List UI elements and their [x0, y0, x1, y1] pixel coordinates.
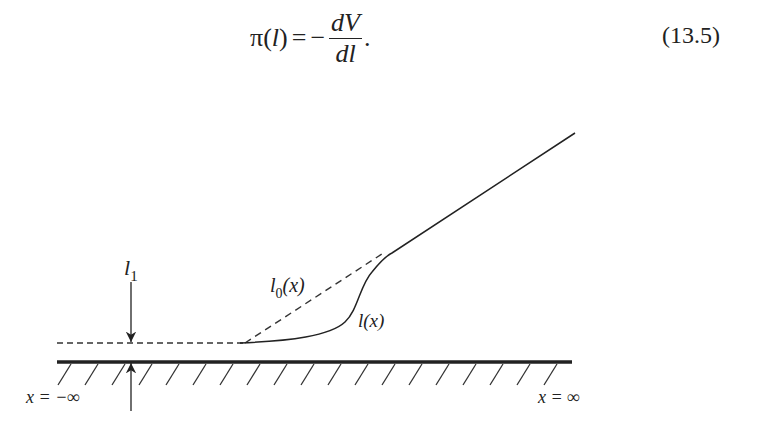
label-x-plus-infinity: x = ∞ — [537, 387, 580, 407]
l-solid-profile — [240, 133, 575, 343]
substrate-hatching — [58, 364, 557, 385]
film-profile-diagram: l1 l0(x) l(x) x = −∞ x = ∞ — [0, 0, 767, 428]
label-l0x: l0(x) — [270, 274, 305, 301]
label-l1: l1 — [124, 255, 138, 284]
label-x-minus-infinity: x = −∞ — [25, 387, 80, 407]
label-lx: l(x) — [358, 310, 384, 332]
